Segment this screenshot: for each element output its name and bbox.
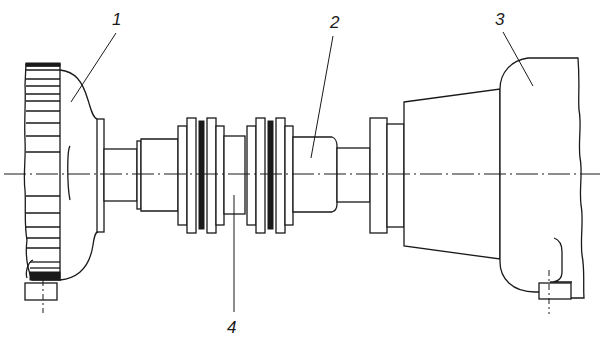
callout-label-1: 1 [112, 10, 121, 29]
callout-label-4: 4 [227, 318, 236, 337]
left-shaft-stub [104, 139, 178, 211]
callout-4: 4 [227, 195, 236, 337]
component-2-shaft [293, 118, 404, 233]
coupling-assembly-drawing: 1 2 3 4 [0, 0, 609, 344]
callout-label-2: 2 [329, 13, 340, 32]
component-4-double-coupling [178, 118, 293, 233]
callout-2: 2 [311, 13, 340, 158]
callout-1: 1 [71, 10, 121, 102]
component-3-right-housing [404, 58, 584, 314]
callout-label-3: 3 [495, 10, 505, 29]
component-1-left-housing [24, 63, 104, 313]
